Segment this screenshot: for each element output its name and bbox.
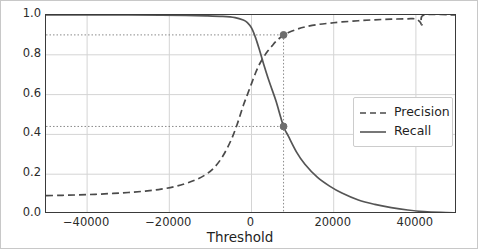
guide-lines bbox=[46, 35, 284, 213]
legend-item-precision: Precision bbox=[359, 103, 446, 122]
x-tick-label: −40000 bbox=[63, 217, 109, 229]
chart-figure: 0.00.20.40.60.81.0 −40000−20000020000400… bbox=[0, 0, 478, 249]
y-tick-label: 0.2 bbox=[5, 167, 41, 179]
x-tick-label: 20000 bbox=[314, 217, 351, 229]
legend-dashed-swatch bbox=[359, 107, 387, 119]
legend-solid-swatch bbox=[359, 126, 387, 138]
y-tick-label: 0.6 bbox=[5, 88, 41, 100]
x-tick-label: 0 bbox=[247, 217, 254, 229]
chart-legend: Precision Recall bbox=[353, 97, 453, 147]
x-tick-label: 40000 bbox=[397, 217, 434, 229]
y-tick-label: 1.0 bbox=[5, 8, 41, 20]
x-tick-label: −20000 bbox=[145, 217, 191, 229]
legend-label-precision: Precision bbox=[394, 106, 450, 119]
legend-label-recall: Recall bbox=[394, 125, 431, 138]
x-axis-title: Threshold bbox=[1, 231, 478, 245]
y-tick-label: 0.8 bbox=[5, 48, 41, 60]
legend-item-recall: Recall bbox=[359, 122, 446, 141]
y-tick-label: 0.4 bbox=[5, 128, 41, 140]
y-axis-tick-labels: 0.00.20.40.60.81.0 bbox=[1, 1, 41, 249]
